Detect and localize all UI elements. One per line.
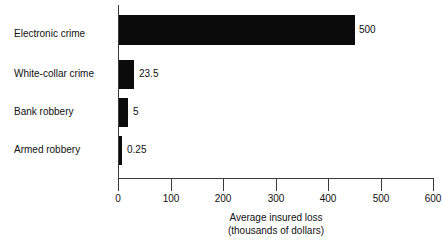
x-axis-title-line1: Average insured loss bbox=[118, 211, 434, 224]
x-tick-label-400: 400 bbox=[308, 193, 348, 205]
x-tick-label-600: 600 bbox=[413, 193, 442, 205]
bar-electronic-crime bbox=[119, 15, 355, 45]
x-axis-title: Average insured loss (thousands of dolla… bbox=[118, 211, 434, 237]
bar-armed-robbery bbox=[119, 136, 122, 165]
bar-white-collar-crime bbox=[119, 60, 134, 89]
bar-bank-robbery bbox=[119, 98, 128, 127]
x-tick-label-100: 100 bbox=[151, 193, 191, 205]
x-tick-100 bbox=[171, 179, 172, 191]
category-label-electronic-crime: Electronic crime bbox=[14, 28, 112, 40]
x-axis-title-line2: (thousands of dollars) bbox=[118, 224, 434, 237]
bar-chart: Electronic crime White-collar crime Bank… bbox=[0, 0, 442, 251]
x-tick-600 bbox=[433, 179, 434, 191]
bar-value-armed-robbery: 0.25 bbox=[127, 144, 146, 156]
x-tick-label-200: 200 bbox=[203, 193, 243, 205]
category-label-bank-robbery: Bank robbery bbox=[14, 106, 112, 118]
x-tick-300 bbox=[276, 179, 277, 191]
x-tick-label-500: 500 bbox=[361, 193, 401, 205]
category-label-armed-robbery: Armed robbery bbox=[14, 144, 112, 156]
x-tick-200 bbox=[223, 179, 224, 191]
x-tick-label-300: 300 bbox=[256, 193, 296, 205]
x-tick-label-0: 0 bbox=[98, 193, 138, 205]
x-tick-400 bbox=[328, 179, 329, 191]
x-tick-500 bbox=[381, 179, 382, 191]
x-tick-0 bbox=[118, 179, 119, 191]
category-label-white-collar-crime: White-collar crime bbox=[14, 68, 112, 80]
bar-value-electronic-crime: 500 bbox=[359, 24, 376, 36]
bar-value-bank-robbery: 5 bbox=[133, 106, 139, 118]
bar-value-white-collar-crime: 23.5 bbox=[139, 68, 158, 80]
